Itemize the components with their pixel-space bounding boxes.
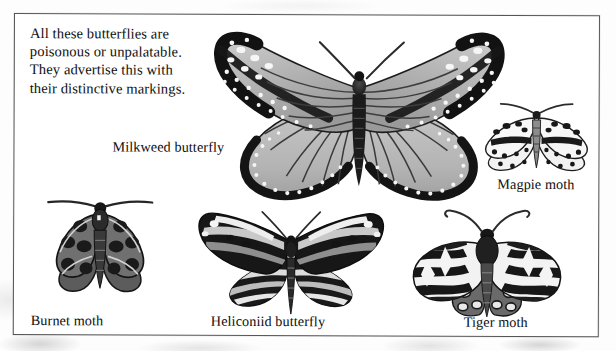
label-milkweed-butterfly: Milkweed butterfly [112, 138, 224, 155]
label-burnet-moth: Burnet moth [31, 312, 104, 329]
antenna-right [105, 201, 152, 206]
antenna-left [48, 201, 95, 206]
abdomen [352, 94, 366, 186]
figure-magpie-moth [476, 97, 596, 175]
antenna-left [320, 42, 355, 78]
scanned-page: All these butterflies are poisonous or u… [0, 0, 616, 351]
illustration-content: All these butterflies are poisonous or u… [13, 13, 600, 337]
abdomen [287, 258, 295, 314]
figure-burnet-moth [40, 190, 160, 306]
thorax [476, 235, 498, 265]
antenna-left [501, 103, 534, 112]
heliconiid-butterfly-drawing [194, 207, 388, 320]
abdomen [532, 119, 540, 167]
antenna-right [540, 104, 573, 113]
thorax-marking [97, 215, 101, 220]
figure-milkweed-butterfly [206, 15, 512, 202]
label-magpie-moth: Magpie moth [497, 175, 574, 192]
label-heliconiid-butterfly: Heliconiid butterfly [211, 312, 325, 329]
milkweed-butterfly-drawing [206, 15, 512, 202]
antenna-left [445, 210, 481, 230]
figure-tiger-moth [405, 204, 569, 323]
antenna-right [493, 210, 529, 230]
magpie-moth-drawing [476, 97, 596, 175]
burnet-moth-drawing [40, 190, 160, 306]
label-tiger-moth: Tiger moth [464, 313, 528, 330]
head [354, 71, 364, 81]
head [533, 110, 541, 118]
abdomen [94, 230, 106, 288]
tiger-moth-drawing [405, 204, 569, 323]
antenna-right [367, 42, 404, 78]
figure-heliconiid-butterfly [194, 207, 388, 320]
